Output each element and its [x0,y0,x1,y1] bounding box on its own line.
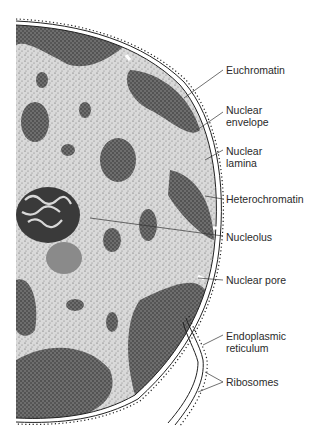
heterochromatin-clump [103,228,121,252]
label-nucleolus: Nucleolus [226,231,272,243]
label-ribosomes: Ribosomes [226,376,279,388]
heterochromatin-clump [79,102,91,118]
leader-ribosomes-a [205,372,223,382]
heterochromatin-clump [61,144,75,156]
leader-euchromatin [184,70,223,98]
label-euchromatin: Euchromatin [226,64,285,76]
leader-ribosomes-b [198,382,223,392]
label-nuclear-envelope: Nuclear envelope [226,104,269,128]
heterochromatin-clump [100,138,136,182]
heterochromatin-clump [36,72,48,88]
heterochromatin-clump [106,312,118,332]
heterochromatin-clump [21,102,49,142]
heterochromatin-clump [66,299,84,311]
label-endoplasmic-reticulum: Endoplasmic reticulum [226,330,286,354]
label-nuclear-lamina: Nuclear lamina [226,145,262,169]
label-nuclear-pore: Nuclear pore [226,274,286,286]
label-heterochromatin: Heterochromatin [226,193,304,205]
leader-endoplasmic-reticulum [203,335,223,345]
